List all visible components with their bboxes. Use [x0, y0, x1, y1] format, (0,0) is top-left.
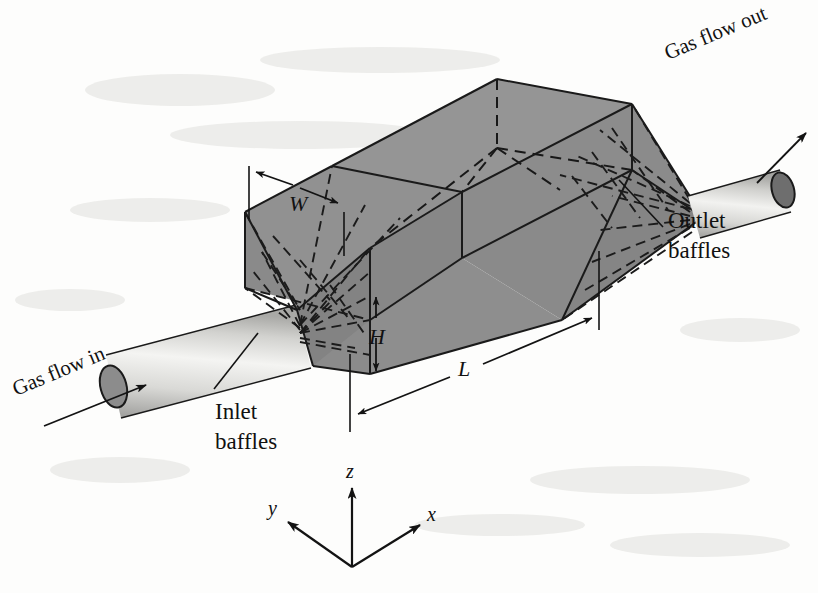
z-axis-label: z — [345, 460, 354, 482]
x-axis-label: x — [426, 503, 436, 525]
outlet-baffles-label-line1: Outlet — [668, 208, 726, 233]
inlet-baffles-label-line1: Inlet — [215, 399, 258, 424]
duct-diagram-svg: Gas flow in Gas flow out Inlet baffles O… — [0, 0, 818, 593]
gas-flow-in-label: Gas flow in — [9, 341, 109, 401]
gas-flow-out-label: Gas flow out — [661, 1, 771, 65]
coordinate-axes — [288, 488, 420, 567]
inlet-baffles-label-line2: baffles — [215, 429, 277, 454]
figure-root: Gas flow in Gas flow out Inlet baffles O… — [0, 0, 818, 593]
y-axis — [288, 522, 352, 567]
x-axis — [352, 525, 420, 567]
y-axis-label: y — [266, 497, 277, 520]
height-dimension-label: H — [368, 324, 386, 349]
inlet-pipe — [95, 305, 311, 418]
length-dimension-label: L — [457, 356, 470, 381]
outlet-baffles-label-line2: baffles — [668, 238, 730, 263]
width-dimension-label: W — [289, 191, 309, 216]
